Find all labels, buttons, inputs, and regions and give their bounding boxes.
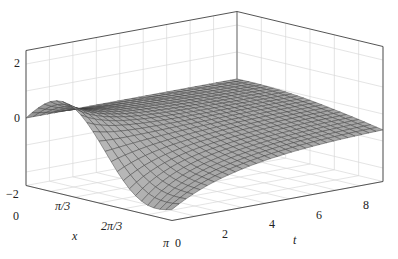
t-tick-0: 0: [175, 236, 181, 250]
x-tick-pi: π: [163, 236, 170, 250]
t-axis-label: t: [293, 233, 297, 247]
t-tick-4: 4: [269, 217, 275, 231]
x-axis-label: x: [71, 229, 78, 243]
z-tick-2: 2: [14, 56, 20, 70]
t-tick-8: 8: [363, 198, 369, 212]
x-tick-2pi-3: 2π/3: [101, 219, 122, 233]
t-tick-6: 6: [316, 208, 322, 222]
surface-mesh: [26, 79, 383, 210]
x-tick-0: 0: [13, 209, 19, 223]
z-tick-neg2: −2: [6, 187, 19, 201]
plot-canvas: 2 0 −2 0 π/3 2π/3 π x 0 2 4 6 8 t: [0, 0, 398, 259]
z-tick-0: 0: [14, 111, 20, 125]
t-tick-2: 2: [222, 227, 228, 241]
surface-plot: 2 0 −2 0 π/3 2π/3 π x 0 2 4 6 8 t: [0, 0, 398, 259]
x-tick-pi-3: π/3: [55, 199, 70, 213]
